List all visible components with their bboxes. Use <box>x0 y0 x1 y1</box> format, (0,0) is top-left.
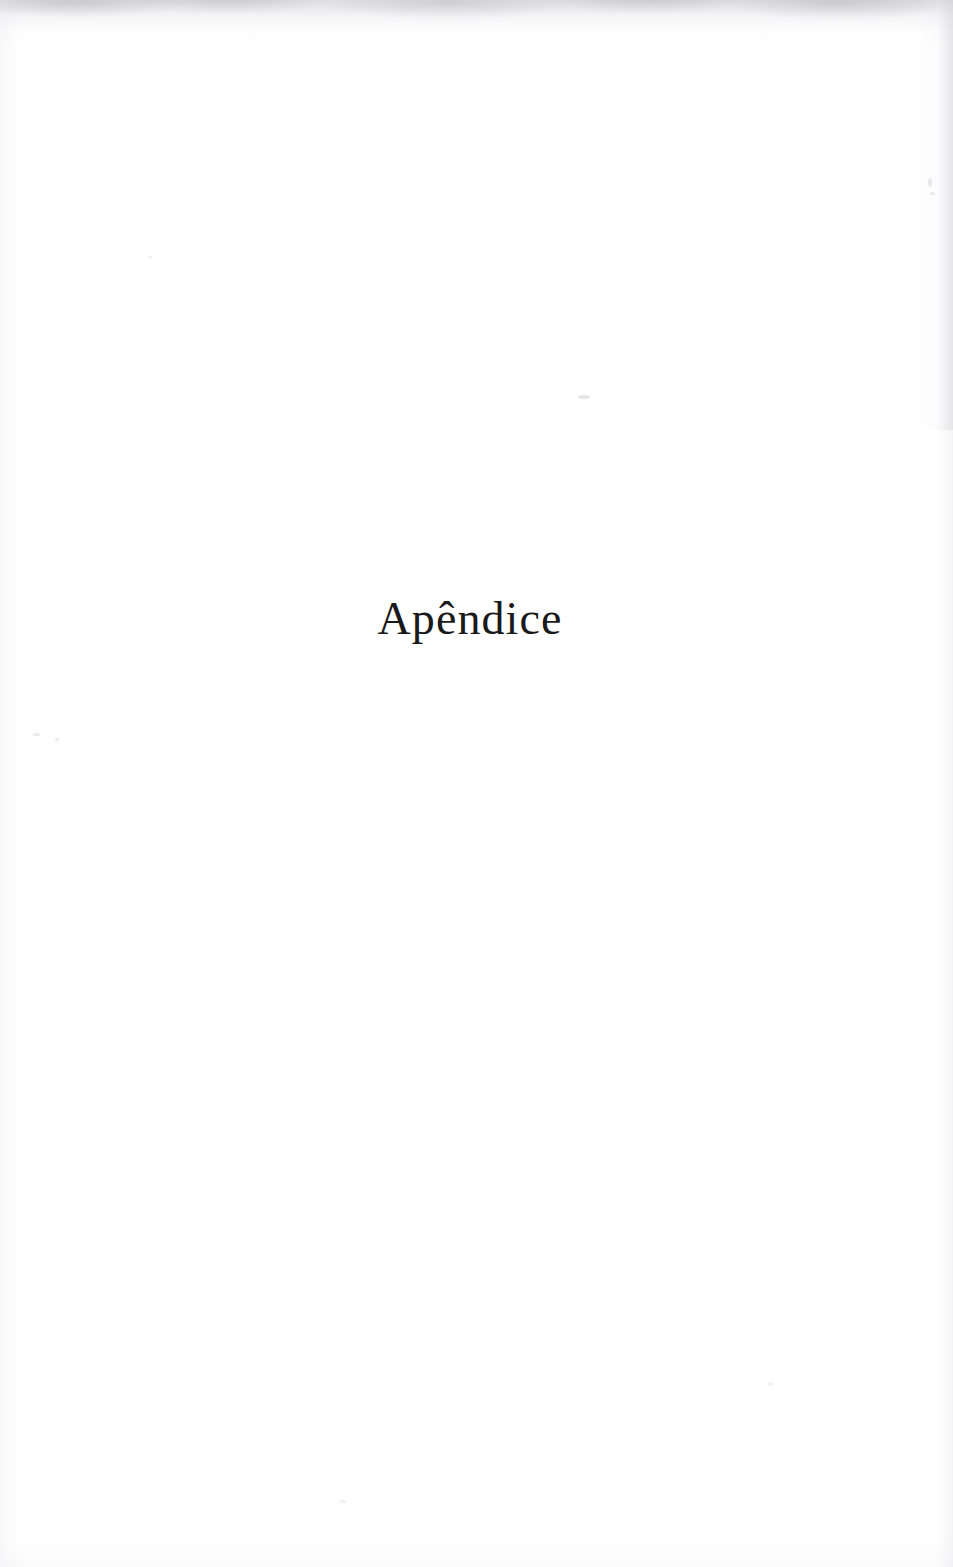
scanned-page: Apêndice <box>0 0 953 1567</box>
page-content-area: Apêndice <box>0 0 953 1567</box>
page-title: Apêndice <box>0 594 940 644</box>
